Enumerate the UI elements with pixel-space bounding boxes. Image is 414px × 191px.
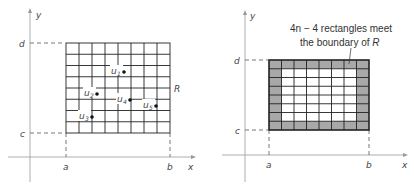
svg-text:5: 5 xyxy=(149,104,153,111)
left-c-label: c xyxy=(20,129,25,139)
svg-text:2: 2 xyxy=(90,92,94,99)
point-u4: u 4 xyxy=(116,93,132,105)
right-b-label: b xyxy=(366,160,372,170)
svg-text:3: 3 xyxy=(85,115,89,122)
left-region-label: R xyxy=(174,84,180,94)
point-u3: u 3 xyxy=(78,110,94,122)
left-x-arrow-icon xyxy=(191,155,196,159)
svg-text:4: 4 xyxy=(123,98,127,105)
point-u1: u 1 xyxy=(110,65,126,77)
svg-text:1: 1 xyxy=(117,70,121,77)
point-u5: u 5 xyxy=(142,99,158,111)
annotation-line2: the boundary of R xyxy=(300,37,380,48)
point-u2: u 2 xyxy=(83,87,99,99)
left-a-label: a xyxy=(63,162,69,172)
left-figure: y x d c a b R xyxy=(8,8,196,182)
left-b-label: b xyxy=(167,162,173,172)
right-a-label: a xyxy=(266,160,272,170)
right-figure: y x d c a b xyxy=(222,10,408,182)
right-x-label: x xyxy=(401,160,408,170)
left-y-label: y xyxy=(35,10,42,20)
right-grid xyxy=(269,60,369,130)
right-c-label: c xyxy=(235,126,240,136)
left-y-arrow-icon xyxy=(28,8,32,13)
right-x-arrow-icon xyxy=(403,153,408,157)
left-d-label: d xyxy=(19,39,25,49)
left-x-label: x xyxy=(187,162,194,172)
annotation-line1: 4n − 4 rectangles meet xyxy=(290,23,392,34)
right-y-label: y xyxy=(249,11,256,21)
figure-canvas: y x d c a b R xyxy=(0,0,414,191)
right-y-arrow-icon xyxy=(243,10,247,15)
right-d-label: d xyxy=(234,56,240,66)
